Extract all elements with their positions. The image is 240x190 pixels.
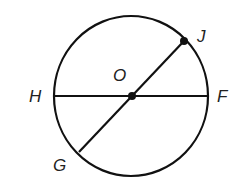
point-j-dot [180,37,188,45]
label-f: F [217,87,229,106]
label-o: O [113,66,126,85]
label-j: J [196,27,206,46]
label-h: H [29,87,42,106]
point-o-dot [128,92,136,100]
circle-diagram: O J H F G [0,0,240,190]
label-g: G [53,156,66,175]
